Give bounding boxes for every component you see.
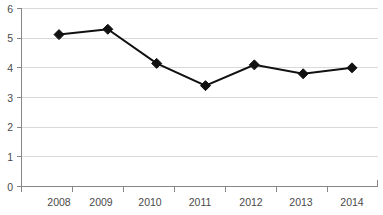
x-tick-label-2012: 2012 — [239, 196, 263, 208]
x-tick-label-2013: 2013 — [289, 196, 313, 208]
y-tick-label-0: 0 — [7, 181, 13, 193]
x-tick-label-2011: 2011 — [189, 196, 212, 208]
chart-canvas: 6 5 4 3 2 1 0 2008 2009 2010 2011 2012 2… — [0, 0, 383, 215]
x-tick-label-2014: 2014 — [340, 196, 364, 208]
y-tick-label-3: 3 — [7, 92, 13, 104]
y-tick-label-1: 1 — [7, 151, 13, 163]
y-tick-label-5: 5 — [7, 32, 13, 44]
y-tick-label-6: 6 — [7, 3, 13, 15]
x-tick-label-2009: 2009 — [89, 196, 113, 208]
y-tick-label-2: 2 — [7, 121, 13, 133]
x-tick-label-2008: 2008 — [47, 196, 71, 208]
x-tick-label-2010: 2010 — [138, 196, 162, 208]
line-chart: 6 5 4 3 2 1 0 2008 2009 2010 2011 2012 2… — [0, 0, 383, 215]
y-tick-label-4: 4 — [7, 62, 13, 74]
